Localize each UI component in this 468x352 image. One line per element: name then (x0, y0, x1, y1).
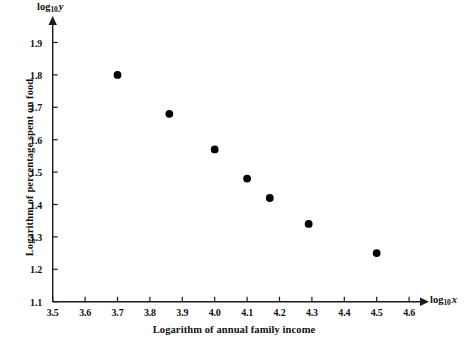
x-axis-symbol-base: log (430, 294, 443, 305)
data-points-group (114, 71, 381, 257)
x-tick-label: 3.7 (112, 307, 124, 318)
x-tick-label: 4.6 (403, 307, 415, 318)
data-point (373, 249, 381, 257)
x-tick-label: 4.0 (209, 307, 221, 318)
x-axis-arrow-icon (420, 298, 429, 306)
x-axis-symbol-variable: x (451, 294, 457, 305)
axes-group (49, 16, 430, 306)
x-tick-label: 4.5 (371, 307, 383, 318)
plot-canvas (0, 0, 468, 352)
x-tick-label: 3.6 (79, 307, 91, 318)
scatter-plot-figure: 3.53.63.73.83.94.04.14.24.34.44.54.6 1.1… (0, 0, 468, 352)
y-axis-title: Logarithm of percentage spent on food (24, 43, 35, 293)
data-point (165, 110, 173, 118)
ticks-group (53, 43, 409, 302)
x-tick-label: 4.1 (241, 307, 253, 318)
x-axis-symbol: log10x (430, 294, 457, 307)
data-point (211, 146, 219, 154)
x-axis-title: Logarithm of annual family income (0, 324, 468, 335)
y-axis-symbol-subscript: 10 (50, 5, 57, 14)
y-tick-label: 1.1 (18, 296, 42, 307)
y-axis-symbol-base: log (37, 1, 50, 12)
x-tick-label: 3.5 (47, 307, 59, 318)
x-tick-label: 4.4 (338, 307, 350, 318)
x-tick-label: 4.2 (274, 307, 286, 318)
data-point (114, 71, 122, 79)
y-axis-symbol-variable: y (58, 1, 64, 12)
x-axis-symbol-subscript: 10 (443, 298, 450, 307)
x-tick-label: 4.3 (306, 307, 318, 318)
y-axis-arrow-icon (49, 16, 57, 25)
data-point (305, 220, 313, 228)
y-axis-symbol: log10y (37, 1, 63, 14)
data-point (266, 194, 274, 202)
x-tick-label: 3.8 (144, 307, 156, 318)
x-tick-label: 3.9 (176, 307, 188, 318)
data-point (243, 175, 251, 183)
